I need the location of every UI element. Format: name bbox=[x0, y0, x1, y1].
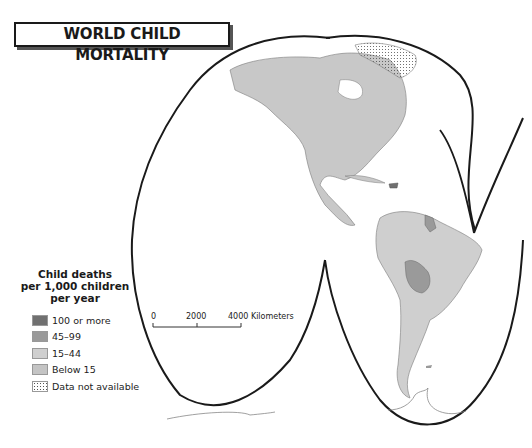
antarctica-coast-right bbox=[388, 388, 466, 414]
legend-title-line: Child deaths bbox=[20, 268, 130, 280]
legend-label: 45–99 bbox=[52, 331, 81, 342]
region-south-america bbox=[376, 212, 482, 398]
legend-items: 100 or more 45–99 15–44 Below 15 Data no… bbox=[32, 312, 160, 395]
legend-swatch bbox=[32, 315, 48, 326]
region-falklands bbox=[426, 365, 432, 368]
legend-item: Below 15 bbox=[32, 362, 160, 379]
legend-item: 45–99 bbox=[32, 329, 160, 346]
map-title-box: WORLD CHILD MORTALITY bbox=[14, 22, 230, 47]
scale-bar: 0 2000 4000 Kilometers bbox=[152, 312, 302, 342]
antarctica-coast-left bbox=[167, 412, 275, 419]
legend-swatch bbox=[32, 364, 48, 375]
legend-title-line: per 1,000 children bbox=[20, 280, 130, 292]
legend-item: 15–44 bbox=[32, 345, 160, 362]
legend-swatch bbox=[32, 381, 48, 392]
legend-label: 15–44 bbox=[52, 348, 81, 359]
legend-label: 100 or more bbox=[52, 315, 111, 326]
legend-title-line: per year bbox=[20, 292, 130, 304]
map-title: WORLD CHILD MORTALITY bbox=[16, 24, 228, 66]
legend-swatch bbox=[32, 348, 48, 359]
region-cuba bbox=[345, 175, 385, 183]
legend-label: Below 15 bbox=[52, 364, 96, 375]
legend-swatch bbox=[32, 331, 48, 342]
region-haiti bbox=[389, 183, 398, 188]
legend-label: Data not available bbox=[52, 381, 139, 392]
legend-title: Child deaths per 1,000 children per year bbox=[20, 268, 130, 304]
region-north-america bbox=[230, 53, 406, 225]
legend-item: Data not available bbox=[32, 378, 160, 395]
projection-outline-right-spike bbox=[474, 118, 523, 233]
scale-bar-line bbox=[152, 312, 302, 342]
legend-item: 100 or more bbox=[32, 312, 160, 329]
legend: Child deaths per 1,000 children per year… bbox=[20, 268, 160, 395]
